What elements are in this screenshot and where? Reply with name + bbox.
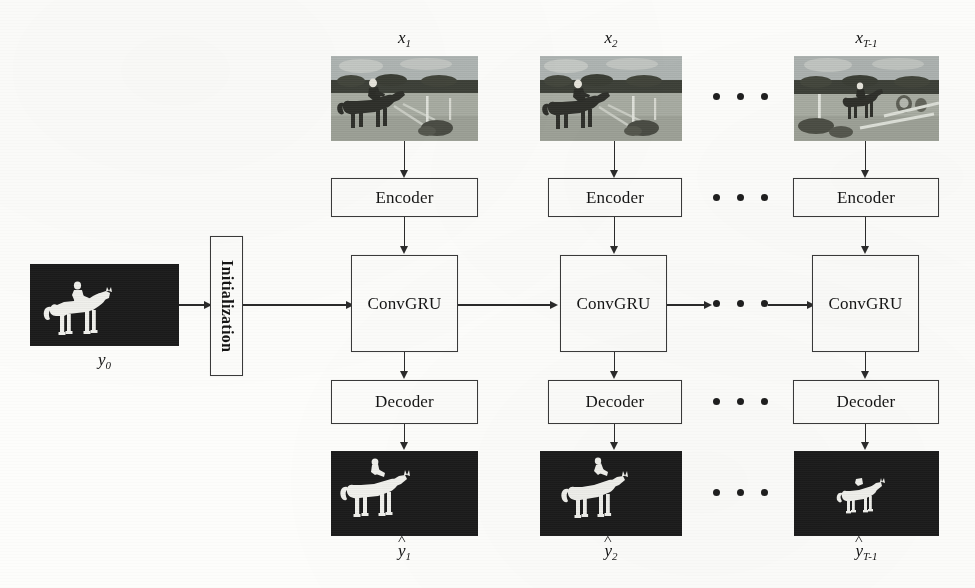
initial-mask-caption: y0 [30,350,179,371]
arrow-init-to-convgru-1 [243,304,347,306]
arrow-convgru-2-to-dots-head [704,301,712,309]
decoder-label-2: Decoder [586,392,645,412]
ellipsis-encoder-row [713,194,768,201]
arrow-decoder-to-output-1-head [400,442,408,450]
ellipsis-convgru-row [713,300,768,307]
input-frame-3 [794,56,939,141]
arrow-convgru-2-to-dots [667,304,705,306]
input-subscript-2: 2 [612,37,618,49]
ellipsis-decoder-row [713,398,768,405]
arrow-mask-to-init [179,304,205,306]
initialization-label: Initialization [218,260,236,352]
convgru-label-3: ConvGRU [828,294,902,314]
arrow-convgru-to-decoder-2-head [610,371,618,379]
output-caption-2: y2 [540,541,682,562]
encoder-label-1: Encoder [375,188,433,208]
arrow-convgru-to-decoder-3 [865,352,867,372]
output-subscript-1: 1 [406,550,412,562]
arrow-input-to-encoder-3-head [861,170,869,178]
arrow-encoder-to-convgru-3 [865,217,867,248]
initialization-box[interactable]: Initialization [210,236,243,376]
convgru-box-3[interactable]: ConvGRU [812,255,919,352]
ellipsis-input-row [713,93,768,100]
input-caption-3: xT-1 [794,28,939,49]
arrow-input-to-encoder-3 [865,141,867,173]
input-photo-2 [540,56,682,141]
input-caption-1: x1 [331,28,478,49]
input-symbol-3: x [855,28,863,47]
input-caption-2: x2 [540,28,682,49]
encoder-label-2: Encoder [586,188,644,208]
arrow-convgru-to-decoder-1-head [400,371,408,379]
arrow-convgru-to-decoder-1 [404,352,406,372]
arrow-convgru-1-to-2 [458,304,551,306]
convgru-label-1: ConvGRU [367,294,441,314]
convgru-box-1[interactable]: ConvGRU [351,255,458,352]
output-mask-3 [794,451,939,536]
decoder-box-2[interactable]: Decoder [548,380,682,424]
output-subscript-3: T-1 [863,550,877,562]
output-caption-1: y1 [331,541,478,562]
arrow-dots-to-convgru-3 [768,304,808,306]
arrow-convgru-1-to-2-head [550,301,558,309]
encoder-box-1[interactable]: Encoder [331,178,478,217]
output-frame-2 [540,451,682,536]
arrow-convgru-to-decoder-2 [614,352,616,372]
initial-mask-subscript: 0 [106,359,112,371]
decoder-box-3[interactable]: Decoder [793,380,939,424]
input-frame-1 [331,56,478,141]
decoder-label-3: Decoder [837,392,896,412]
output-mask-2 [540,451,682,536]
arrow-decoder-to-output-3 [865,424,867,443]
output-frame-3 [794,451,939,536]
initial-mask-silhouette [30,264,179,346]
initial-mask-symbol: y [98,350,106,369]
initial-mask-frame [30,264,179,346]
arrow-encoder-to-convgru-1 [404,217,406,248]
encoder-box-3[interactable]: Encoder [793,178,939,217]
arrow-convgru-to-decoder-3-head [861,371,869,379]
arrow-encoder-to-convgru-2 [614,217,616,248]
convgru-label-2: ConvGRU [576,294,650,314]
arrow-input-to-encoder-2 [614,141,616,173]
decoder-label-1: Decoder [375,392,434,412]
output-subscript-2: 2 [612,550,618,562]
arrow-encoder-to-convgru-3-head [861,246,869,254]
input-symbol-1: x [398,28,406,47]
input-photo-1 [331,56,478,141]
arrow-decoder-to-output-2 [614,424,616,443]
input-photo-3 [794,56,939,141]
convgru-box-2[interactable]: ConvGRU [560,255,667,352]
arrow-decoder-to-output-1 [404,424,406,443]
output-caption-3: yT-1 [794,541,939,562]
arrow-input-to-encoder-1 [404,141,406,173]
ellipsis-output-row [713,489,768,496]
encoder-box-2[interactable]: Encoder [548,178,682,217]
arrow-decoder-to-output-2-head [610,442,618,450]
decoder-box-1[interactable]: Decoder [331,380,478,424]
arrow-input-to-encoder-2-head [610,170,618,178]
output-mask-1 [331,451,478,536]
output-symbol-1: y [398,541,406,560]
encoder-label-3: Encoder [837,188,895,208]
output-symbol-2: y [604,541,612,560]
output-symbol-3: y [855,541,863,560]
input-subscript-1: 1 [406,37,412,49]
input-subscript-3: T-1 [863,37,877,49]
output-frame-1 [331,451,478,536]
arrow-encoder-to-convgru-2-head [610,246,618,254]
arrow-decoder-to-output-3-head [861,442,869,450]
arrow-encoder-to-convgru-1-head [400,246,408,254]
arrow-input-to-encoder-1-head [400,170,408,178]
input-symbol-2: x [604,28,612,47]
input-frame-2 [540,56,682,141]
